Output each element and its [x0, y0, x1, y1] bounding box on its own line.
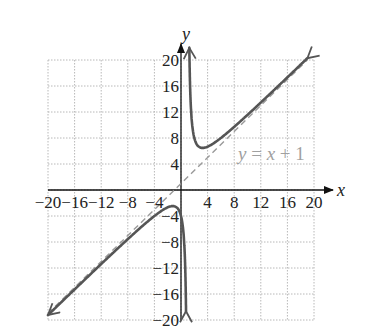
y-axis-label: y [180, 24, 190, 44]
x-axis-label: x [336, 180, 345, 200]
asymptote-label-eq: = [246, 143, 266, 164]
y-tick-label: 16 [162, 77, 179, 96]
function-graph: −20−16−12−8−448121620−20−16−12−8−4481216… [0, 0, 375, 329]
x-tick-label: −20 [35, 193, 62, 212]
y-tick-label: −8 [161, 233, 179, 252]
y-tick-label: −16 [152, 285, 179, 304]
y-tick-label: 12 [162, 103, 179, 122]
x-tick-label: 16 [279, 193, 296, 212]
y-tick-label: 4 [171, 155, 180, 174]
upper-branch-curve [189, 48, 307, 148]
asymptote-label: y = x + 1 [236, 143, 305, 164]
y-tick-label: 8 [171, 129, 180, 148]
y-tick-label: 20 [162, 51, 179, 70]
x-tick-label: 20 [306, 193, 323, 212]
x-tick-label: 4 [203, 193, 212, 212]
asymptote-label-y: y [236, 143, 247, 164]
x-tick-label: 12 [252, 193, 269, 212]
x-tick-label: −16 [61, 193, 88, 212]
x-tick-label: 8 [230, 193, 239, 212]
x-tick-label: −12 [88, 193, 115, 212]
x-tick-label: −8 [119, 193, 137, 212]
y-tick-label: −12 [152, 259, 179, 278]
y-tick-label: −4 [161, 207, 180, 226]
asymptote-label-rest: + 1 [275, 143, 305, 164]
y-tick-label: −20 [152, 311, 179, 329]
